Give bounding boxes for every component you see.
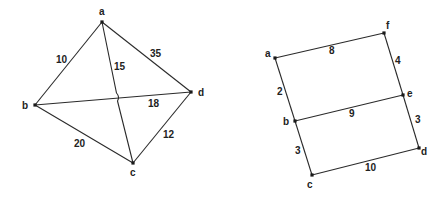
edge-b-d (35, 92, 191, 105)
node-label-a: a (265, 48, 271, 59)
node-label-a: a (99, 6, 105, 17)
edge-weight-b-d: 18 (148, 98, 160, 109)
edge-weight-a-d: 35 (150, 48, 162, 59)
node-f (382, 31, 385, 34)
edge-b-c (35, 105, 133, 163)
edge-a-b (35, 22, 102, 105)
node-label-e: e (407, 88, 413, 99)
edge-weight-c-d: 10 (365, 162, 377, 173)
node-e (401, 93, 404, 96)
node-label-f: f (386, 20, 390, 31)
edge-weight-b-c: 3 (295, 145, 301, 156)
edge-weight-f-e: 4 (395, 55, 401, 66)
node-label-d: d (198, 87, 204, 98)
node-b (293, 119, 296, 122)
edge-weight-b-e: 9 (349, 108, 355, 119)
node-c (310, 173, 313, 176)
node-a (273, 56, 276, 59)
node-label-c: c (307, 179, 313, 190)
right-graph: 84293310afebdc (265, 20, 427, 190)
node-label-b: b (283, 116, 289, 127)
edge-a-d (102, 22, 191, 92)
node-label-d: d (421, 146, 427, 157)
node-b (33, 103, 36, 106)
edge-weight-a-f: 8 (329, 45, 335, 56)
edge-weight-a-c: 15 (114, 61, 126, 72)
node-a (100, 20, 103, 23)
edge-weight-c-d: 12 (163, 129, 175, 140)
edge-c-d (133, 92, 191, 163)
edge-weight-a-b: 2 (277, 86, 283, 97)
left-graph: 103515182012abcd (22, 6, 204, 178)
graph-diagram: 103515182012abcd 84293310afebdc (0, 0, 448, 198)
node-c (131, 161, 134, 164)
edge-weight-b-c: 20 (74, 138, 86, 149)
node-label-c: c (130, 167, 136, 178)
edge-weight-e-d: 3 (415, 114, 421, 125)
edge-weight-a-b: 10 (56, 54, 68, 65)
node-label-b: b (22, 100, 28, 111)
node-d (189, 90, 192, 93)
